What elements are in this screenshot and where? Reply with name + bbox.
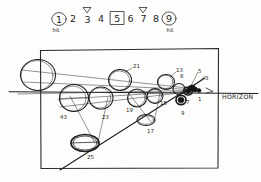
number-value: 5 (114, 13, 120, 24)
ball-label: 25 (87, 154, 94, 160)
ball-label: 43 (60, 114, 67, 120)
ball-label: 9 (181, 110, 185, 116)
number-note: hit (167, 27, 174, 33)
ball-9[interactable]: 9 (176, 95, 186, 116)
number-value: 9 (166, 13, 172, 24)
ball-43[interactable] (21, 60, 56, 91)
ball-25[interactable]: 25 (71, 135, 99, 161)
ball-label: 19 (126, 107, 133, 113)
number-value: 1 (56, 14, 62, 25)
ball-43-lower[interactable]: 43 (60, 85, 89, 121)
ball-label: 17 (147, 128, 154, 134)
caret-down-icon (140, 8, 148, 13)
number-value: 6 (127, 13, 133, 24)
ball-label: 1 (198, 96, 201, 102)
number-item-3[interactable]: 3 (84, 8, 92, 25)
number-item-9[interactable]: 9 hit (162, 12, 176, 33)
ball-label: 21 (133, 63, 140, 69)
number-item-4[interactable]: 4 (98, 13, 104, 24)
ball-17[interactable]: 17 (137, 115, 155, 135)
ball-label: 15 (160, 100, 167, 106)
caret-down-icon (84, 8, 92, 13)
ball-label: 5 (198, 68, 201, 74)
number-value: 7 (140, 13, 146, 24)
number-item-6[interactable]: 6 (127, 13, 133, 24)
number-item-2[interactable]: 2 (70, 13, 76, 24)
number-value: 8 (153, 13, 159, 24)
horizon-label: HORIZON (222, 93, 254, 100)
horizon-arrow-icon (206, 88, 213, 93)
ball-label: 23 (102, 114, 109, 120)
number-value: 3 (84, 14, 90, 25)
number-value: 4 (98, 13, 104, 24)
ball-group: 43 23 25 21 19 (21, 60, 209, 161)
number-row: 1 hit 2 3 4 5 6 7 8 (52, 8, 176, 34)
number-value: 2 (70, 13, 76, 24)
number-item-8[interactable]: 8 (153, 13, 159, 24)
number-item-1[interactable]: 1 hit (52, 13, 66, 33)
number-note: hit (53, 27, 60, 33)
ball-label: 3 (205, 75, 208, 81)
perspective-lines (18, 70, 205, 170)
ball-1[interactable]: 1 (197, 89, 201, 102)
sketch-canvas: 1 hit 2 3 4 5 6 7 8 (0, 0, 261, 182)
number-item-5[interactable]: 5 (111, 12, 125, 25)
number-item-7[interactable]: 7 (140, 8, 148, 25)
ball-label: 7 (186, 99, 189, 105)
ball-label: 8 (180, 73, 184, 79)
